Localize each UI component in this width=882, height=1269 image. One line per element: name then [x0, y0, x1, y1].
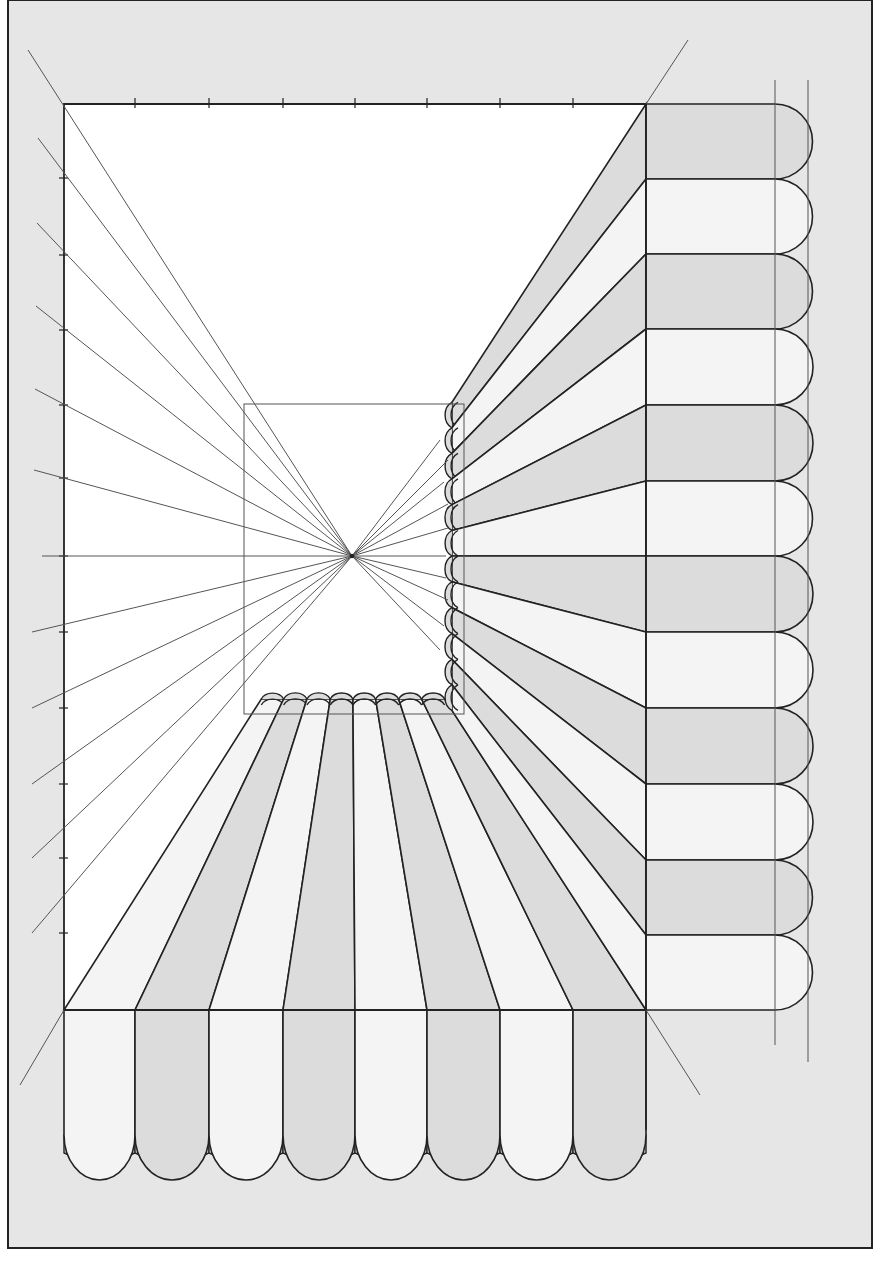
- perspective-diagram: [0, 0, 882, 1269]
- vanishing-point: [350, 554, 354, 558]
- side-valance-panel: [646, 632, 813, 708]
- side-valance-panel: [646, 329, 813, 405]
- valance-panel: [355, 1010, 427, 1180]
- valance-panel: [573, 1010, 646, 1180]
- side-valance-panel: [646, 179, 813, 254]
- side-valance-panel: [646, 405, 813, 481]
- side-valance-panel: [646, 784, 813, 860]
- valance-panel: [64, 1010, 135, 1180]
- side-valance-panel: [646, 935, 813, 1010]
- valance-panel: [135, 1010, 209, 1180]
- valance-panel: [427, 1010, 500, 1180]
- awning-perspective-drawing: [0, 0, 882, 1269]
- side-valance-panel: [646, 254, 813, 329]
- side-valance-panel: [646, 481, 813, 556]
- valance-panel: [283, 1010, 355, 1180]
- side-valance-panel: [646, 708, 813, 784]
- side-valance-panel: [646, 556, 813, 632]
- valance-panel: [209, 1010, 283, 1180]
- side-valance-panel: [646, 860, 813, 935]
- valance-panel: [500, 1010, 573, 1180]
- side-valance-panel: [646, 104, 813, 179]
